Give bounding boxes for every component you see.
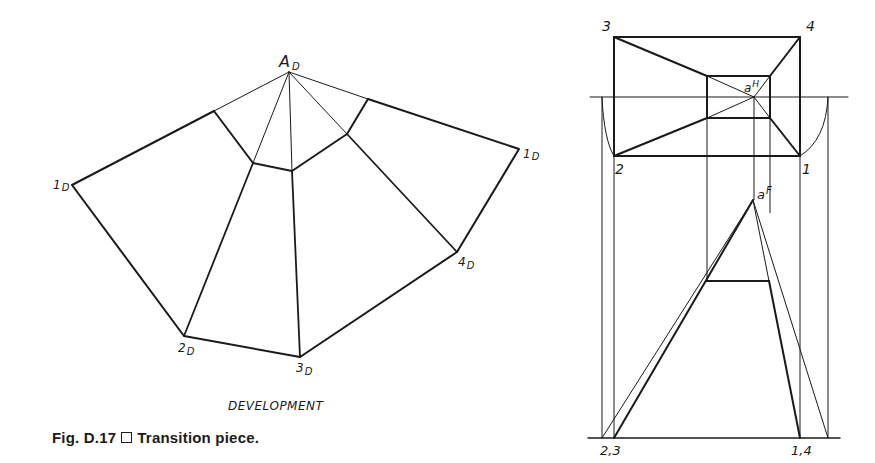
label-4d: 4D	[458, 255, 475, 271]
development-outer-edge	[72, 99, 519, 357]
label-corner-3: 3	[602, 18, 611, 34]
label-apex-development: AD	[278, 52, 300, 72]
transition-piece-drawing: AD 1D 1D 4D 2D 3D DEVELOPMENT	[0, 0, 875, 463]
label-base-1-4: 1,4	[791, 443, 812, 458]
development-labels: AD 1D 1D 4D 2D 3D DEVELOPMENT	[53, 52, 540, 413]
revolution-arc-left	[602, 97, 614, 156]
top-view	[590, 37, 848, 156]
label-2d: 2D	[178, 341, 195, 357]
label-corner-4: 4	[806, 18, 815, 34]
front-view	[588, 200, 840, 438]
development-caption: DEVELOPMENT	[228, 399, 325, 413]
figure-title: Transition piece.	[137, 429, 259, 446]
label-1d-left: 1D	[53, 178, 70, 193]
label-corner-2: 2	[615, 161, 624, 177]
figure-number: Fig. D.17	[52, 429, 116, 446]
label-corner-1: 1	[802, 161, 811, 177]
development-radial-lines	[214, 72, 368, 171]
label-1d-right: 1D	[523, 147, 540, 162]
square-icon	[121, 432, 132, 443]
label-base-2-3: 2,3	[600, 443, 621, 458]
figure-caption: Fig. D.17Transition piece.	[52, 429, 259, 446]
development-view	[72, 72, 519, 357]
development-fold-lines	[184, 134, 457, 357]
label-3d: 3D	[296, 361, 313, 377]
revolution-arc-right	[800, 97, 828, 156]
